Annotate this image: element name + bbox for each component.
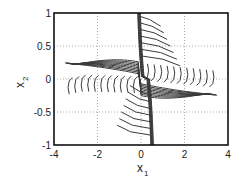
svg-text:x: x [137, 161, 143, 175]
svg-text:2: 2 [21, 76, 30, 81]
trajectory [101, 75, 105, 92]
svg-text:1: 1 [144, 169, 149, 178]
trajectory [88, 75, 92, 92]
trajectory [157, 65, 161, 82]
phase-plot: -4 -2 0 2 4 -1 -0.5 0 0.5 1 x 1 x 2 [0, 0, 242, 187]
trajectory [119, 119, 151, 129]
trajectory [107, 76, 111, 93]
trajectory [203, 70, 207, 87]
trajectory [177, 67, 181, 84]
trajectory [141, 49, 177, 59]
xtick-label: 4 [225, 149, 231, 160]
trajectory [141, 43, 174, 53]
trajectory [164, 66, 168, 83]
y-axis-label: x 2 [13, 76, 30, 88]
trajectory [124, 105, 152, 115]
trajectory [68, 78, 72, 95]
trajectory [190, 68, 194, 85]
xtick-label: -2 [93, 149, 102, 160]
trajectory [140, 23, 164, 33]
trajectory [114, 76, 118, 93]
trajectory [140, 16, 161, 26]
trajectory [141, 56, 180, 66]
trajectory [197, 69, 201, 86]
svg-text:x: x [13, 82, 27, 88]
ytick-label: -0.5 [34, 107, 52, 118]
trajectory [120, 76, 124, 93]
ytick-label: 0.5 [37, 41, 51, 52]
ytick-label: 1 [45, 8, 51, 19]
trajectory [140, 30, 167, 40]
trajectory [121, 112, 151, 122]
trajectory [141, 36, 171, 46]
x-tick-labels: -4 -2 0 2 4 [50, 149, 232, 160]
trajectory [126, 99, 152, 109]
trajectory [183, 68, 187, 85]
trajectory [117, 125, 151, 135]
trajectory [81, 75, 85, 92]
ytick-label: -1 [42, 140, 51, 151]
xtick-label: 0 [138, 149, 144, 160]
trajectory [127, 76, 131, 93]
xtick-label: 2 [182, 149, 188, 160]
trajectory [94, 75, 98, 92]
y-tick-labels: -1 -0.5 0 0.5 1 [34, 8, 52, 151]
x-axis-label: x 1 [137, 161, 149, 178]
trajectory [151, 65, 155, 82]
trajectory [133, 76, 137, 93]
trajectory [170, 67, 174, 84]
ytick-label: 0 [45, 74, 51, 85]
